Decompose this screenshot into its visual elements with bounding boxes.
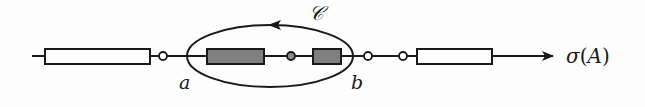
spectrum-part-2 [207, 49, 264, 64]
endpoint-b-label: b [351, 71, 363, 93]
gap-point-1 [159, 52, 167, 60]
spectral-contour-diagram: 𝒞 a b σ(A) [0, 0, 645, 107]
open-paren: ( [580, 44, 588, 68]
inner-point [287, 52, 295, 60]
spectrum-label: σ(A) [566, 44, 610, 68]
spectrum-part-3 [313, 49, 341, 64]
contour-label: 𝒞 [309, 1, 329, 25]
gap-point-2 [364, 52, 372, 60]
operator-symbol: A [585, 44, 601, 68]
endpoint-a-label: a [179, 71, 190, 93]
close-paren: ) [602, 44, 610, 68]
spectrum-part-4 [417, 49, 492, 64]
gap-point-3 [399, 52, 407, 60]
spectrum-part-1 [45, 49, 150, 64]
